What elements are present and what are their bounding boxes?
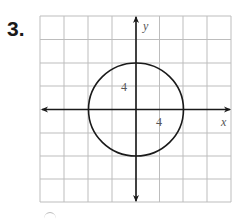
y-tick-label-4: 4 (121, 80, 127, 94)
x-axis-label: x (220, 115, 227, 129)
coordinate-graph: y x 4 4 (0, 0, 233, 222)
x-tick-label-4: 4 (156, 115, 162, 129)
cropped-glyph (44, 212, 56, 222)
axes (42, 17, 230, 201)
y-axis-label: y (142, 19, 149, 33)
